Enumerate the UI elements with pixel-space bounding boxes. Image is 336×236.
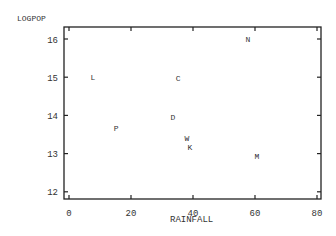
y-tick-label: 15	[47, 74, 58, 84]
x-tick-label: 80	[312, 209, 323, 219]
x-axis-ticks: 020406080	[66, 27, 322, 219]
x-tick-label: 0	[66, 209, 71, 219]
data-point-k: K	[187, 143, 192, 152]
y-tick-label: 14	[47, 112, 58, 122]
y-tick-label: 12	[47, 188, 58, 198]
scatter-plot: 020406080 1213141516 NLCDPWKM	[0, 0, 336, 236]
plot-frame	[64, 27, 321, 199]
x-tick-label: 40	[188, 209, 199, 219]
x-tick-label: 60	[250, 209, 261, 219]
data-point-l: L	[90, 73, 95, 82]
data-point-n: N	[245, 35, 250, 44]
data-points: NLCDPWKM	[90, 35, 259, 161]
x-tick-label: 20	[126, 209, 137, 219]
y-tick-label: 16	[47, 36, 58, 46]
data-point-m: M	[254, 152, 259, 161]
data-point-w: W	[184, 134, 189, 143]
y-tick-label: 13	[47, 150, 58, 160]
data-point-c: C	[176, 74, 181, 83]
data-point-d: D	[170, 113, 175, 122]
data-point-p: P	[114, 124, 119, 133]
y-axis-ticks: 1213141516	[47, 36, 321, 199]
